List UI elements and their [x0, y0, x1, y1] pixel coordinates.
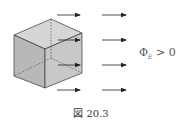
flux-relation: > 0 [152, 46, 175, 59]
flux-symbol: Φ [139, 46, 148, 59]
cube [14, 19, 82, 88]
flux-label: ΦE > 0 [139, 46, 176, 60]
figure-caption: 図 20.3 [0, 105, 182, 120]
